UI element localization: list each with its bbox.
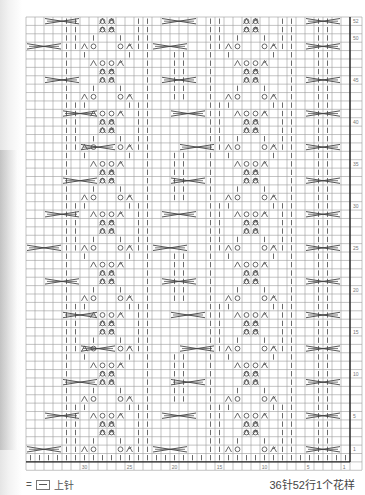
svg-text:5: 5 [353, 413, 356, 419]
svg-text:20: 20 [172, 464, 178, 470]
chart-caption: 36针52行1个花样 [269, 476, 355, 492]
svg-text:25: 25 [127, 464, 133, 470]
svg-text:25: 25 [353, 245, 359, 251]
svg-text:52: 52 [353, 18, 359, 24]
svg-text:30: 30 [353, 203, 359, 209]
knitting-chart: 1510152025303540455052151015202530 [0, 0, 365, 475]
svg-text:10: 10 [353, 371, 359, 377]
svg-text:5: 5 [307, 464, 310, 470]
legend-label: 上针 [54, 477, 74, 492]
svg-text:15: 15 [217, 464, 223, 470]
svg-text:40: 40 [353, 119, 359, 125]
legend-equals: = [26, 479, 32, 490]
svg-text:45: 45 [353, 77, 359, 83]
svg-text:50: 50 [353, 35, 359, 41]
svg-text:10: 10 [262, 464, 268, 470]
svg-text:15: 15 [353, 329, 359, 335]
svg-text:30: 30 [82, 464, 88, 470]
svg-text:35: 35 [353, 161, 359, 167]
legend: = 上针 [26, 477, 74, 492]
svg-text:1: 1 [343, 464, 346, 470]
svg-text:1: 1 [353, 446, 356, 452]
svg-text:20: 20 [353, 287, 359, 293]
purl-box-icon [36, 480, 50, 490]
